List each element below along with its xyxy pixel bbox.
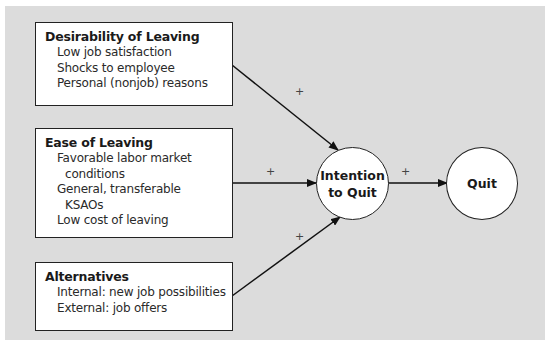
- intention-to-quit-node: Intention to Quit: [316, 147, 389, 220]
- box-item-continuation: KSAOs: [45, 198, 232, 214]
- ease-of-leaving-box: Ease of Leaving Favorable labor market c…: [35, 128, 233, 238]
- edge-sign-alternatives: +: [295, 231, 304, 242]
- edge-alternatives-to-intention: [232, 217, 340, 296]
- box-item: Shocks to employee: [45, 61, 232, 77]
- quit-node: Quit: [446, 147, 518, 220]
- box-item: General, transferable: [45, 182, 232, 198]
- box-item: Personal (nonjob) reasons: [45, 76, 232, 92]
- box-item-continuation: conditions: [45, 167, 232, 183]
- box-item: Favorable labor market: [45, 151, 232, 167]
- box-title: Desirability of Leaving: [45, 28, 232, 45]
- edge-desirability-to-intention: [232, 65, 338, 150]
- edge-sign-ease: +: [266, 166, 275, 177]
- edge-sign-desirability: +: [295, 86, 304, 97]
- alternatives-box: Alternatives Internal: new job possibili…: [35, 262, 233, 331]
- desirability-of-leaving-box: Desirability of Leaving Low job satisfac…: [35, 22, 233, 106]
- box-title: Ease of Leaving: [45, 134, 232, 151]
- box-title: Alternatives: [45, 268, 232, 285]
- edge-sign-intention-quit: +: [401, 166, 410, 177]
- box-item: External: job offers: [45, 301, 232, 317]
- box-item: Low cost of leaving: [45, 213, 232, 229]
- node-label-line2: to Quit: [320, 184, 385, 201]
- node-label-line1: Intention: [320, 167, 385, 184]
- node-label: Quit: [467, 175, 497, 192]
- box-item: Internal: new job possibilities: [45, 285, 232, 301]
- box-item: Low job satisfaction: [45, 45, 232, 61]
